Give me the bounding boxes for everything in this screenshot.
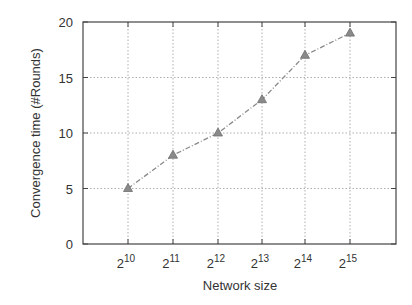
x-tick-label: 214 (294, 253, 313, 271)
grid-lines (83, 22, 396, 244)
y-tick-label: 20 (59, 15, 73, 30)
y-tick-label: 15 (59, 71, 73, 86)
x-tick-label: 215 (339, 253, 358, 271)
triangle-marker-icon (301, 50, 310, 58)
x-tick-label: 212 (207, 253, 226, 271)
triangle-marker-icon (169, 150, 178, 158)
line-chart: 05101520 210211212213214215 Network size… (0, 0, 412, 305)
y-tick-label: 0 (66, 237, 73, 252)
series-line (128, 33, 350, 188)
y-tick-label: 10 (59, 126, 73, 141)
data-series (124, 28, 355, 191)
x-axis-label: Network size (203, 278, 277, 293)
triangle-marker-icon (258, 95, 267, 103)
triangle-marker-icon (214, 128, 223, 136)
x-tick-label: 213 (251, 253, 270, 271)
y-axis-label: Convergence time (#Rounds) (28, 48, 43, 218)
y-tick-label: 5 (66, 182, 73, 197)
x-axis-ticks: 210211212213214215 (117, 22, 358, 271)
y-axis-ticks: 05101520 (59, 15, 396, 252)
x-tick-label: 211 (162, 253, 180, 271)
x-tick-label: 210 (117, 253, 136, 271)
triangle-marker-icon (124, 184, 133, 192)
triangle-marker-icon (346, 28, 355, 36)
